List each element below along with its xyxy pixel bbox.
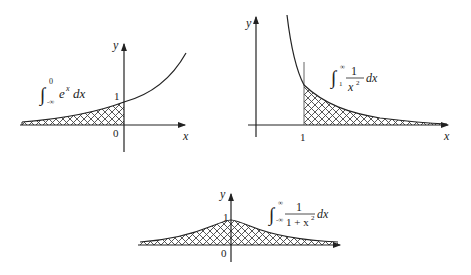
lower-limit: -∞ — [47, 98, 54, 106]
y-axis-label: y — [219, 187, 226, 201]
upper-limit: ∞ — [340, 63, 345, 71]
origin-label: 0 — [221, 247, 227, 259]
integral-expression-inverse-square: ∫ ∞ 1 1 x 2 dx — [330, 63, 378, 94]
numerator: 1 — [296, 200, 302, 214]
lower-limit: -∞ — [276, 216, 283, 224]
x-axis-label: x — [443, 129, 450, 143]
y-axis-label: y — [112, 38, 119, 52]
denominator: 1 + x — [286, 216, 309, 228]
integral-sign: ∫ — [39, 84, 47, 107]
x-axis-label: x — [182, 129, 189, 143]
lower-limit: 1 — [339, 80, 343, 88]
upper-limit: 0 — [49, 77, 53, 86]
denominator: x — [347, 80, 354, 94]
integrand-base: e — [59, 86, 65, 101]
y-axis-label: y — [245, 16, 252, 30]
numerator: 1 — [351, 64, 357, 78]
y-intercept-label: 1 — [114, 90, 120, 102]
panel-cauchy: y 0 1 ∫ ∞ -∞ 1 1 + x 2 dx — [138, 187, 340, 262]
integral-expression-cauchy: ∫ ∞ -∞ 1 1 + x 2 dx — [268, 199, 329, 228]
integral-sign: ∫ — [330, 67, 338, 90]
shaded-area-exponential — [22, 102, 124, 125]
peak-label: 1 — [223, 211, 229, 223]
improper-integrals-diagram: y x 0 1 ∫ 0 -∞ e x dx y x 1 ∫ ∞ 1 1 x 2 — [0, 0, 471, 275]
upper-limit: ∞ — [278, 199, 283, 207]
integrand-exponent: x — [65, 84, 70, 93]
origin-label: 0 — [113, 127, 119, 139]
x-mark-label: 1 — [300, 131, 306, 143]
denominator-exponent: 2 — [356, 79, 360, 87]
differential: dx — [317, 207, 329, 221]
shaded-area-inverse-square — [304, 85, 447, 125]
integral-expression-exponential: ∫ 0 -∞ e x dx — [39, 77, 86, 107]
differential: dx — [73, 86, 86, 101]
differential: dx — [366, 71, 378, 85]
panel-inverse-square: y x 1 ∫ ∞ 1 1 x 2 dx — [245, 15, 450, 143]
integral-sign: ∫ — [268, 204, 276, 227]
panel-exponential: y x 0 1 ∫ 0 -∞ e x dx — [20, 38, 189, 152]
denominator-exponent: 2 — [311, 214, 315, 222]
